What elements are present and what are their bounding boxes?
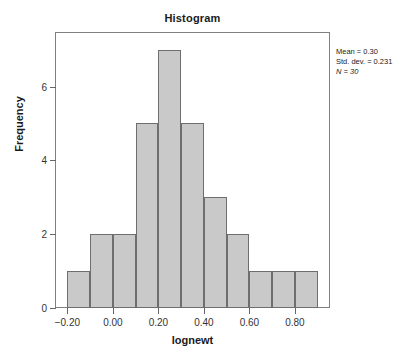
histogram-bar [249, 271, 272, 308]
x-axis-tick [295, 308, 296, 314]
x-axis-tick [113, 308, 114, 314]
y-axis-tick-label: 2 [17, 234, 47, 235]
statistics-annotation: Mean = 0.30 Std. dev. = 0.231 N = 30 [336, 47, 406, 77]
y-axis-tick [50, 160, 56, 161]
histogram-figure: Histogram −0.200.000.200.400.600.800246 … [0, 0, 409, 363]
x-axis-tick [204, 308, 205, 314]
stat-mean: Mean = 0.30 [336, 47, 406, 57]
histogram-bar [295, 271, 318, 308]
histogram-bar [113, 234, 136, 308]
x-axis-tick-label: 0.00 [89, 317, 137, 328]
histogram-bar [90, 234, 113, 308]
x-axis-tick-label: 0.60 [225, 317, 273, 328]
histogram-bar [158, 50, 181, 308]
x-axis-tick-label: 0.80 [271, 317, 319, 328]
x-axis-tick [67, 308, 68, 314]
x-axis-tick-label: 0.40 [180, 317, 228, 328]
y-axis-tick [50, 308, 56, 309]
stat-sample-size: N = 30 [336, 67, 406, 77]
histogram-bar [204, 197, 227, 308]
y-axis-tick-label: 0 [17, 308, 47, 309]
stat-std-dev: Std. dev. = 0.231 [336, 57, 406, 67]
histogram-bar [227, 234, 250, 308]
chart-title: Histogram [55, 12, 330, 24]
histogram-bar [181, 123, 204, 308]
x-axis-tick-label: −0.20 [43, 317, 91, 328]
plot-area: −0.200.000.200.400.600.800246 [56, 33, 329, 308]
histogram-bar [136, 123, 159, 308]
histogram-bar [67, 271, 90, 308]
x-axis-label: lognewt [55, 334, 330, 346]
x-axis-tick-label: 0.20 [134, 317, 182, 328]
x-axis-tick [158, 308, 159, 314]
y-axis-label: Frequency [13, 64, 25, 184]
x-axis-tick [249, 308, 250, 314]
histogram-bar [272, 271, 295, 308]
y-axis-tick [50, 234, 56, 235]
y-axis-tick [50, 87, 56, 88]
